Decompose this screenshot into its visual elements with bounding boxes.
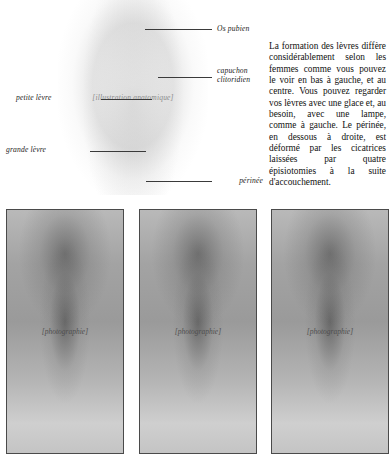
leader-line-capuchon-clitoridien (158, 77, 212, 78)
leader-line-perinee (146, 181, 212, 182)
figure-label-capuchon-clitoridien: capuchon clitoridien (217, 67, 250, 85)
leader-line-petite-levre (101, 99, 152, 100)
photo-panel-right-placeholder-caption: [photographie] (272, 326, 388, 337)
body-paragraph: La formation des lèvres diffère considér… (269, 41, 386, 188)
drawing-placeholder-caption: [illustration anatomique] (58, 92, 208, 102)
figure-label-grande-levre: grande lèvre (6, 146, 46, 155)
photo-panel-center: [photographie] (139, 209, 257, 454)
photo-panel-center-placeholder-caption: [photographie] (140, 326, 256, 337)
photo-panel-row: [photographie] [photographie] [photograp… (0, 207, 388, 457)
photo-panel-left-placeholder-caption: [photographie] (7, 326, 123, 337)
leader-line-grande-levre (90, 151, 146, 152)
figure-label-os-pubien: Os pubien (217, 25, 249, 34)
leader-line-os-pubien (145, 29, 212, 30)
figure-label-petite-levre: petite lèvre (16, 94, 51, 103)
figure-label-capuchon-clitoridien-line2: clitoridien (217, 76, 250, 85)
figure-label-perinee: périnée (217, 177, 263, 186)
photo-panel-left: [photographie] (6, 209, 124, 454)
figure-and-text-section: [illustration anatomique] Os pubien capu… (0, 0, 388, 197)
photo-panel-right: [photographie] (271, 209, 389, 454)
